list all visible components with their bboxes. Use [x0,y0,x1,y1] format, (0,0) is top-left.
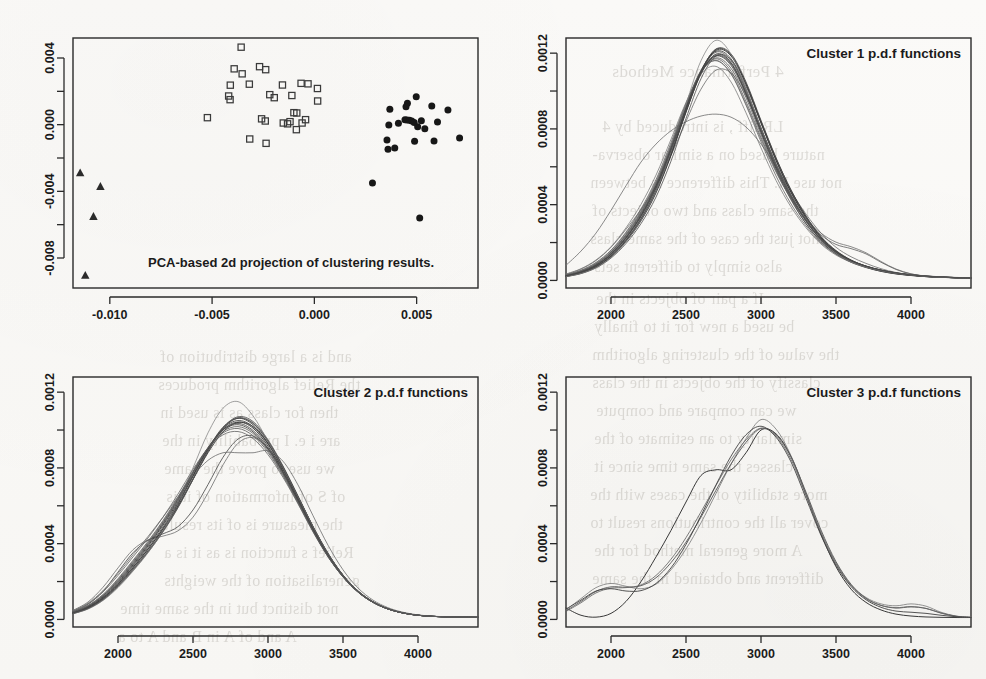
scatter-marker-square [263,140,269,146]
pdf-curve [566,61,971,278]
scatter-marker-square [231,66,237,72]
scatter-marker-square [279,82,285,88]
svg-text:2000: 2000 [597,647,625,661]
pca-scatter-plot: -0.010-0.0050.0000.0050.0040.000-0.004-0… [0,0,493,339]
scatter-marker-circle [385,146,392,153]
pdf-curve [566,69,971,278]
svg-text:2000: 2000 [104,647,132,661]
pdf-curve [566,58,971,278]
cluster2-title: Cluster 2 p.d.f functions [313,385,468,400]
scatter-marker-circle [385,122,392,129]
svg-text:0.004: 0.004 [43,42,57,73]
cluster3-title: Cluster 3 p.d.f functions [806,385,961,400]
svg-text:3500: 3500 [822,308,850,322]
scatter-marker-circle [414,123,421,130]
series-cluster-3 [76,168,105,278]
svg-text:2500: 2500 [672,308,700,322]
pdf-curve [73,422,478,617]
scatter-marker-circle [456,135,463,142]
cluster1-title: Cluster 1 p.d.f functions [806,46,961,61]
svg-text:0.0008: 0.0008 [536,110,550,148]
svg-text:0.0000: 0.0000 [43,600,57,638]
pdf-curve [73,421,478,618]
svg-text:2500: 2500 [179,647,207,661]
pdf-curve [566,55,971,277]
scatter-marker-circle [434,119,441,126]
svg-text:-0.010: -0.010 [92,308,127,322]
scatter-marker-square [314,85,320,91]
svg-text:4000: 4000 [897,647,925,661]
scatter-marker-square [239,71,245,77]
scatter-marker-circle [369,180,376,187]
scatter-marker-circle [403,103,410,110]
scatter-marker-triangle [96,182,104,190]
scatter-marker-circle [411,138,418,145]
pdf-curve [73,416,478,617]
pdf-curve [73,401,478,617]
scatter-marker-circle [416,215,423,222]
svg-text:4000: 4000 [897,308,925,322]
panel-pca-scatter: -0.010-0.0050.0000.0050.0040.000-0.004-0… [0,0,493,339]
svg-text:0.0008: 0.0008 [536,449,550,487]
pdf-curve [73,418,478,617]
scatter-marker-square [256,64,262,70]
scatter-marker-circle [418,117,425,124]
panel-cluster3: 200025003000350040000.00000.00040.00080.… [493,339,986,679]
scatter-marker-circle [391,145,398,152]
svg-text:3000: 3000 [747,308,775,322]
pdf-curve [566,54,971,278]
scatter-marker-circle [395,120,402,127]
svg-text:-0.005: -0.005 [194,308,229,322]
pdf-curve [566,48,971,278]
scatter-marker-circle [444,107,451,114]
scatter-marker-square [263,67,269,73]
scatter-marker-square [293,127,299,133]
scatter-marker-square [287,119,293,125]
cluster2-pdf-plot: 200025003000350040000.00000.00040.00080.… [0,339,493,679]
svg-text:0.0004: 0.0004 [536,525,550,563]
pdf-curve [566,428,971,617]
scatter-marker-triangle [81,271,89,279]
pdf-curve [73,437,478,617]
pdf-curves [73,401,478,617]
pdf-curve [566,55,971,278]
scatter-marker-circle [421,125,428,132]
cluster1-pdf-plot: 200025003000350040000.00000.00040.00080.… [493,0,986,339]
scatter-marker-circle [386,106,393,113]
panel-cluster1: 200025003000350040000.00000.00040.00080.… [493,0,986,339]
svg-text:2000: 2000 [597,308,625,322]
pdf-curve [566,426,971,617]
pdf-curve [566,66,971,278]
scatter-marker-circle [431,138,438,145]
scatter-marker-square [238,44,244,50]
pdf-curve [566,60,971,278]
pdf-curve [73,418,478,618]
series-cluster-1 [204,44,320,146]
panel-cluster2: 200025003000350040000.00000.00040.00080.… [0,339,493,679]
scatter-marker-square [246,81,252,87]
scatter-marker-square [298,80,304,86]
svg-text:-0.004: -0.004 [43,174,57,209]
pdf-curves [566,419,971,617]
scatter-marker-circle [413,93,420,100]
svg-text:2500: 2500 [672,647,700,661]
pdf-curve [566,56,971,278]
svg-text:0.0008: 0.0008 [43,449,57,487]
svg-text:0.0012: 0.0012 [43,373,57,411]
pdf-curve [566,54,971,278]
scatter-marker-circle [428,103,435,110]
scatter-marker-circle [383,137,390,144]
pdf-curve [566,428,971,617]
svg-text:3000: 3000 [747,647,775,661]
svg-text:0.0004: 0.0004 [43,525,57,563]
scatter-marker-triangle [89,212,97,220]
scatter-points [76,44,463,279]
scatter-marker-square [227,82,233,88]
svg-text:0.0000: 0.0000 [536,261,550,299]
series-cluster-2 [369,93,463,221]
svg-text:-0.008: -0.008 [43,240,57,275]
scatter-marker-square [289,92,295,98]
pca-caption: PCA-based 2d projection of clustering re… [148,255,434,270]
scatter-marker-square [204,115,210,121]
cluster3-pdf-plot: 200025003000350040000.00000.00040.00080.… [493,339,986,679]
